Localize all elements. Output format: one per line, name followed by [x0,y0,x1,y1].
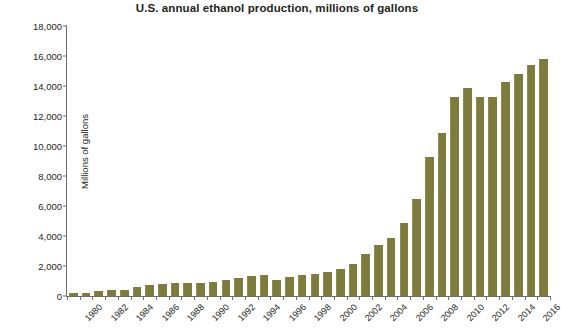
x-axis-tick-mark [131,296,132,300]
bar [69,293,78,296]
y-axis-tick-mark [63,56,67,57]
bar [120,290,129,296]
y-axis-tick-label: 14,000 [14,81,62,92]
bar [272,280,281,297]
bar [336,269,345,296]
x-axis-tick-mark [334,296,335,300]
x-axis-tick-label: 1984 [134,302,155,323]
x-axis-tick-label: 1980 [83,302,104,323]
bar [412,199,421,297]
x-axis-tick-label: 2012 [490,302,511,323]
x-axis-tick-label: 1986 [159,302,180,323]
bar [107,290,116,296]
y-axis-tick-mark [63,26,67,27]
bar [450,97,459,297]
x-axis-tick-label: 2008 [439,302,460,323]
x-axis-tick-mark [67,296,68,300]
x-axis-tick-label: 2006 [414,302,435,323]
x-axis-tick-mark [537,296,538,300]
y-axis-tick-mark [63,176,67,177]
y-axis-label: Millions of gallons [79,72,90,232]
bar [323,272,332,296]
x-axis-tick-label: 1992 [236,302,257,323]
x-axis-tick-mark [80,296,81,300]
bar [145,285,154,296]
bar [488,97,497,297]
x-axis-tick-mark [181,296,182,300]
x-axis-tick-mark [512,296,513,300]
y-axis-tick-label: 6,000 [14,201,62,212]
bar [361,254,370,296]
bar [94,291,103,296]
x-axis-tick-label: 1996 [287,302,308,323]
x-axis-tick-mark [207,296,208,300]
x-axis-tick-label: 2000 [337,302,358,323]
bar [196,283,205,297]
bar [311,274,320,296]
bar [133,287,142,296]
plot-area: Millions of gallons 18,00016,00014,00012… [67,26,550,296]
x-axis-tick-mark [92,296,93,300]
x-axis-tick-mark [385,296,386,300]
x-axis-tick-mark [232,296,233,300]
y-axis-tick-mark [63,266,67,267]
bar [425,157,434,297]
bar [476,97,485,297]
bar [387,238,396,297]
bar [158,284,167,296]
bar [298,275,307,296]
y-axis-tick-label: 16,000 [14,51,62,62]
x-axis-tick-mark [245,296,246,300]
bar [260,275,269,296]
x-axis-tick-label: 1988 [185,302,206,323]
x-axis-tick-mark [410,296,411,300]
bar [463,88,472,297]
bar [539,59,548,296]
x-axis-tick-label: 2016 [541,302,562,323]
bar [514,74,523,296]
x-axis-tick-mark [550,296,551,300]
bar [183,283,192,296]
x-axis-tick-mark [156,296,157,300]
bar [234,278,243,296]
y-axis-tick-label: 2,000 [14,261,62,272]
x-axis-tick-mark [258,296,259,300]
x-axis-tick-mark [499,296,500,300]
x-axis-tick-mark [347,296,348,300]
x-axis-tick-mark [525,296,526,300]
x-axis-tick-mark [321,296,322,300]
bar [400,223,409,297]
x-axis-tick-mark [220,296,221,300]
y-axis-tick-label: 0 [14,291,62,302]
x-axis-tick-label: 1982 [109,302,130,323]
x-axis-tick-mark [423,296,424,300]
x-axis-tick-mark [436,296,437,300]
bar [438,133,447,297]
bar [82,293,91,296]
y-axis-tick-label: 12,000 [14,111,62,122]
x-axis-tick-mark [270,296,271,300]
y-axis-tick-mark [63,116,67,117]
x-axis-tick-mark [397,296,398,300]
y-axis-tick-mark [63,206,67,207]
x-axis-tick-mark [194,296,195,300]
y-axis-tick-mark [63,236,67,237]
x-axis-tick-mark [118,296,119,300]
bar [374,245,383,296]
bar [501,82,510,297]
chart-title: U.S. annual ethanol production, millions… [0,2,554,14]
x-axis-tick-mark [143,296,144,300]
bar [171,283,180,296]
x-axis-tick-label: 2002 [363,302,384,323]
bar [209,282,218,296]
x-axis-tick-mark [486,296,487,300]
x-axis-tick-mark [372,296,373,300]
y-axis-tick-label: 18,000 [14,21,62,32]
y-axis-tick-label: 10,000 [14,141,62,152]
x-axis-tick-label: 1994 [261,302,282,323]
x-axis-tick-mark [296,296,297,300]
bar [349,264,358,296]
x-axis-tick-mark [105,296,106,300]
y-axis-tick-mark [63,146,67,147]
